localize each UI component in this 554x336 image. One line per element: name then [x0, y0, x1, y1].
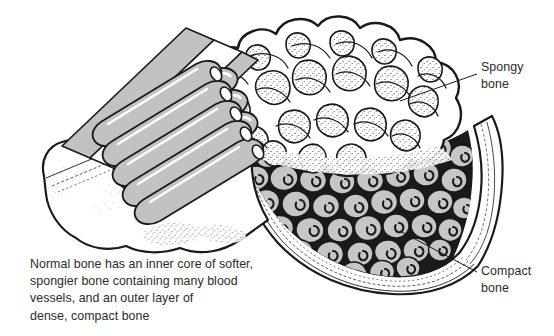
callout-compact-bone: Compact bone [481, 263, 531, 296]
callout-compact-line1: Compact [481, 264, 531, 278]
caption-line-2: spongier bone containing many blood [30, 273, 270, 290]
figure-page: Spongy bone Compact bone Normal bone has… [0, 0, 554, 336]
caption-line-4: dense, compact bone [30, 308, 270, 325]
figure-caption: Normal bone has an inner core of softer,… [30, 256, 270, 325]
caption-line-1: Normal bone has an inner core of softer, [30, 256, 270, 273]
callout-spongy-line2: bone [481, 76, 524, 93]
caption-line-3: vessels, and an outer layer of [30, 290, 270, 307]
callout-spongy-line1: Spongy [481, 60, 524, 74]
callout-compact-line2: bone [481, 280, 531, 297]
callout-spongy-bone: Spongy bone [481, 59, 524, 92]
